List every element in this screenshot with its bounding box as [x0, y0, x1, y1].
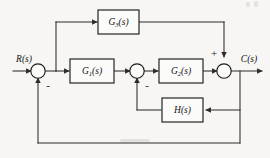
svg-text:G3(s): G3(s) [108, 17, 128, 28]
svg-text:G2(s): G2(s) [171, 66, 191, 77]
summing-junction-3[interactable] [217, 64, 231, 78]
sum3-plus-sign: + [211, 47, 217, 59]
block-diagram-canvas: G3(s) G1(s) G2(s) H(s) [0, 0, 270, 158]
block-g3-tail: (s) [119, 17, 129, 28]
output-signal-label: C(s) [241, 54, 257, 65]
block-h-tail: (s) [181, 105, 191, 116]
summing-junction-1[interactable] [31, 64, 45, 78]
block-diagram-figure: G3(s) G1(s) G2(s) H(s) [0, 0, 270, 158]
block-g1[interactable]: G1(s) [70, 59, 114, 83]
summing-junction-2[interactable] [130, 64, 144, 78]
svg-text:G1(s): G1(s) [82, 66, 102, 77]
input-signal-label: R(s) [15, 54, 32, 65]
block-g3[interactable]: G3(s) [98, 10, 139, 34]
sum1-minus-sign: - [46, 79, 50, 91]
svg-text:H(s): H(s) [173, 105, 191, 116]
block-h[interactable]: H(s) [162, 98, 203, 122]
sum2-minus-sign: - [145, 79, 149, 91]
block-g1-tail: (s) [92, 66, 102, 77]
block-g2[interactable]: G2(s) [159, 59, 203, 83]
block-g2-tail: (s) [181, 66, 191, 77]
